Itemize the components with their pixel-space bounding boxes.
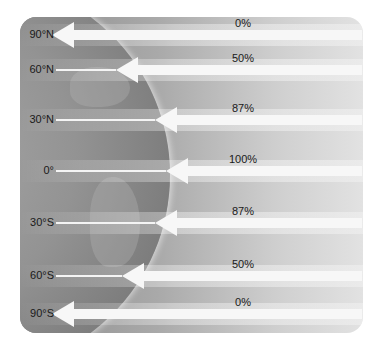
- sunlight-arrow: [155, 113, 362, 127]
- arrowhead-icon: [52, 301, 74, 327]
- latitude-line: [56, 119, 155, 121]
- arrow-shaft: [136, 65, 362, 75]
- latitude-line: [56, 69, 116, 71]
- percent-label: 100%: [213, 153, 273, 165]
- arrowhead-icon: [155, 107, 177, 133]
- arrow-shaft: [175, 218, 362, 228]
- sunlight-arrow: [52, 307, 362, 321]
- percent-label: 0%: [213, 17, 273, 29]
- latitude-label: 30°S: [24, 216, 54, 228]
- percent-label: 50%: [213, 258, 273, 270]
- latitude-label: 60°N: [24, 63, 54, 75]
- percent-label: 87%: [213, 102, 273, 114]
- latitude-label: 30°N: [24, 113, 54, 125]
- latitude-label: 0°: [24, 164, 54, 176]
- arrow-shaft: [186, 166, 362, 176]
- arrowhead-icon: [122, 263, 144, 289]
- arrow-shaft: [72, 30, 362, 40]
- arrowhead-icon: [116, 57, 138, 83]
- arrowhead-icon: [155, 210, 177, 236]
- latitude-label: 90°N: [24, 28, 54, 40]
- sunlight-arrow: [122, 269, 362, 283]
- sunlight-arrow: [166, 164, 362, 178]
- latitude-label: 60°S: [24, 269, 54, 281]
- latitude-label: 90°S: [24, 307, 54, 319]
- latitude-line: [56, 222, 155, 224]
- sunlight-arrow: [155, 216, 362, 230]
- latitude-line: [56, 275, 122, 277]
- sunlight-arrow: [52, 28, 362, 42]
- percent-label: 87%: [213, 205, 273, 217]
- sunlight-arrow: [116, 63, 362, 77]
- percent-label: 0%: [213, 296, 273, 308]
- arrowhead-icon: [166, 158, 188, 184]
- latitude-line: [56, 170, 166, 172]
- arrowhead-icon: [52, 22, 74, 48]
- arrow-shaft: [175, 115, 362, 125]
- arrow-shaft: [72, 309, 362, 319]
- percent-label: 50%: [213, 52, 273, 64]
- arrow-shaft: [142, 271, 362, 281]
